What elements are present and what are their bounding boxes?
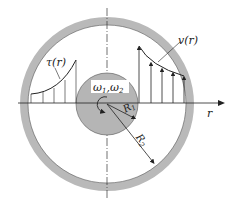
- outer-radius-label: R2: [132, 131, 151, 150]
- velocity-profile: [139, 42, 184, 103]
- shear-stress-label: τ(r): [46, 56, 66, 69]
- couette-flow-diagram: r τ(r) v(r) ω1,ω2 R1 R2: [0, 0, 233, 205]
- r-axis-arrow-icon: [218, 100, 225, 106]
- r-axis-label: r: [207, 107, 213, 120]
- velocity-label: v(r): [178, 34, 198, 47]
